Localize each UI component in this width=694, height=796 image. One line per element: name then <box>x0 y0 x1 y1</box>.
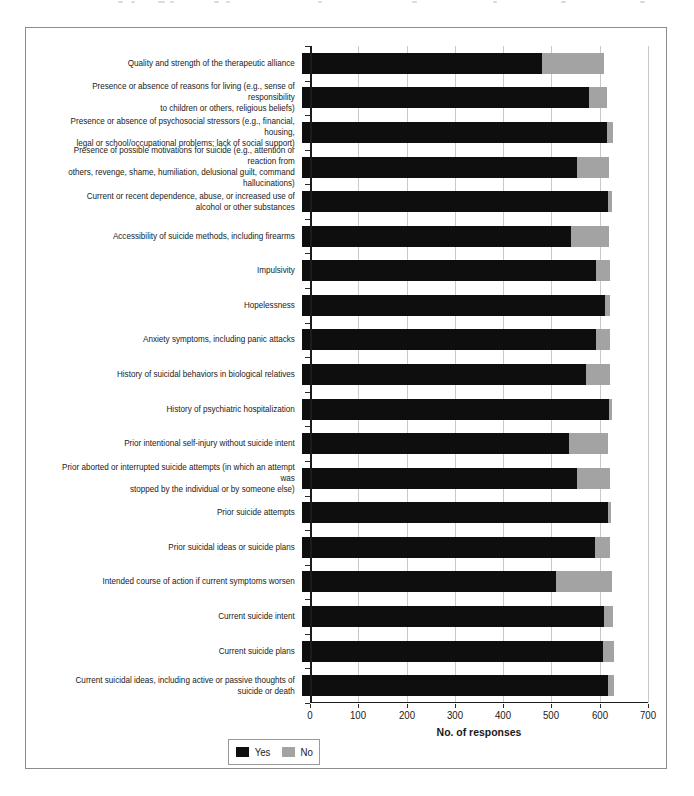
x-axis-tick <box>358 704 359 708</box>
bar-track <box>302 537 648 558</box>
x-axis-tick <box>551 704 552 708</box>
bar-track <box>302 641 648 662</box>
bar-segment-no <box>603 641 614 662</box>
category-label: Quality and strength of the therapeutic … <box>54 58 302 69</box>
y-axis-tick <box>305 461 310 462</box>
bar-track <box>302 433 648 454</box>
bar-segment-yes <box>302 226 571 247</box>
bar-segment-no <box>542 53 604 74</box>
y-axis-tick <box>305 323 310 324</box>
chart-row: History of suicidal behaviors in biologi… <box>26 357 648 392</box>
y-axis-tick <box>305 703 310 704</box>
y-axis-tick <box>305 253 310 254</box>
x-axis-tick <box>407 704 408 708</box>
legend-yes-label: Yes <box>255 746 271 758</box>
bar-segment-no <box>586 364 610 385</box>
bar-track <box>302 260 648 281</box>
chart-rows: Quality and strength of the therapeutic … <box>26 46 648 703</box>
bar-segment-yes <box>302 53 542 74</box>
x-axis-tick <box>648 704 649 708</box>
category-label: History of psychiatric hospitalization <box>54 404 302 415</box>
chart-row: Presence of possible motivations for sui… <box>26 150 648 185</box>
y-axis-tick <box>305 219 310 220</box>
y-axis-tick <box>305 634 310 635</box>
chart-row: Current or recent dependence, abuse, or … <box>26 184 648 219</box>
y-axis-tick <box>305 150 310 151</box>
bar-segment-no <box>556 571 612 592</box>
chart-row: Hopelessness <box>26 288 648 323</box>
gridline <box>648 46 649 703</box>
bar-segment-yes <box>302 606 604 627</box>
legend: Yes No <box>228 739 320 765</box>
x-tick-label: 0 <box>307 709 312 721</box>
bar-track <box>302 502 648 523</box>
bar-segment-yes <box>302 675 608 696</box>
bar-track <box>302 606 648 627</box>
x-axis-tick <box>310 704 311 708</box>
chart-row: Current suicide plans <box>26 634 648 669</box>
y-axis-tick <box>305 46 310 47</box>
category-label: Current or recent dependence, abuse, or … <box>54 191 302 213</box>
bar-track <box>302 226 648 247</box>
category-label: Prior intentional self-injury without su… <box>54 438 302 449</box>
bar-segment-yes <box>302 571 556 592</box>
bar-segment-no <box>608 191 612 212</box>
bar-track <box>302 191 648 212</box>
y-axis-tick <box>305 115 310 116</box>
y-axis-tick <box>305 392 310 393</box>
bar-track <box>302 364 648 385</box>
x-axis-line <box>310 702 648 704</box>
bar-track <box>302 571 648 592</box>
chart-row: History of psychiatric hospitalization <box>26 392 648 427</box>
category-label: Prior suicidal ideas or suicide plans <box>54 542 302 553</box>
category-label: Current suicide plans <box>54 646 302 657</box>
chart-row: Prior intentional self-injury without su… <box>26 426 648 461</box>
bar-segment-yes <box>302 87 589 108</box>
y-axis-tick <box>305 668 310 669</box>
chart-row: Current suicidal ideas, including active… <box>26 668 648 703</box>
bar-track <box>302 295 648 316</box>
bar-track <box>302 675 648 696</box>
category-label: Accessibility of suicide methods, includ… <box>54 231 302 242</box>
bar-segment-no <box>577 468 611 489</box>
chart-row: Presence or absence of reasons for livin… <box>26 81 648 116</box>
bar-track <box>302 329 648 350</box>
bar-track <box>302 399 648 420</box>
category-label: History of suicidal behaviors in biologi… <box>54 369 302 380</box>
x-tick-label: 200 <box>398 709 414 721</box>
chart-row: Impulsivity <box>26 253 648 288</box>
category-label: Impulsivity <box>54 265 302 276</box>
bar-segment-no <box>596 329 610 350</box>
bar-segment-no <box>607 122 613 143</box>
x-tick-label: 300 <box>447 709 463 721</box>
y-axis-tick <box>305 184 310 185</box>
chart-row: Quality and strength of the therapeutic … <box>26 46 648 81</box>
chart-figure: Quality and strength of the therapeutic … <box>25 27 667 769</box>
category-label: Current suicide intent <box>54 611 302 622</box>
category-label: Hopelessness <box>54 300 302 311</box>
bar-segment-no <box>596 260 610 281</box>
bar-segment-yes <box>302 502 608 523</box>
x-axis-tick <box>600 704 601 708</box>
y-axis-tick <box>305 530 310 531</box>
y-axis-tick <box>305 426 310 427</box>
bar-segment-yes <box>302 157 577 178</box>
bar-track <box>302 468 648 489</box>
bar-track <box>302 87 648 108</box>
bar-segment-no <box>595 537 610 558</box>
x-tick-label: 400 <box>495 709 511 721</box>
bar-segment-no <box>571 226 610 247</box>
category-label: Anxiety symptoms, including panic attack… <box>54 334 302 345</box>
y-axis-tick <box>305 599 310 600</box>
bar-track <box>302 53 648 74</box>
x-axis-title: No. of responses <box>318 726 639 738</box>
category-label: Intended course of action if current sym… <box>54 576 302 587</box>
chart-row: Prior suicidal ideas or suicide plans <box>26 530 648 565</box>
bar-segment-yes <box>302 260 596 281</box>
bar-segment-yes <box>302 399 609 420</box>
bar-segment-no <box>609 399 612 420</box>
x-tick-label: 600 <box>592 709 608 721</box>
bar-segment-yes <box>302 364 586 385</box>
bar-segment-no <box>604 606 613 627</box>
bar-segment-no <box>605 295 610 316</box>
